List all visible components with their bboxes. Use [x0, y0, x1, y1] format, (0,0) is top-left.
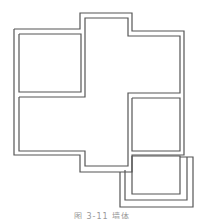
balcony-inner	[132, 156, 180, 194]
room-top-left	[19, 34, 81, 92]
room-right	[132, 98, 180, 151]
floor-plan	[0, 0, 204, 219]
figure-caption: 图 3-11 墙体	[0, 212, 204, 219]
